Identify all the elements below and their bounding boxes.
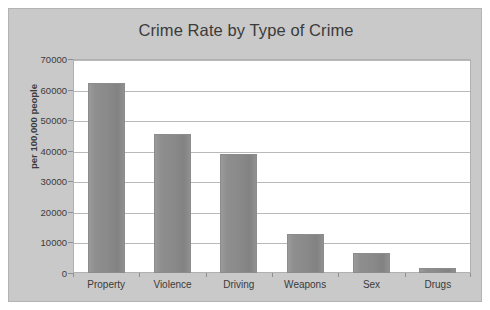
x-axis-tick-marks [73, 273, 471, 278]
x-axis-tick-label: Drugs [424, 279, 451, 290]
chart-canvas: Crime Rate by Type of Crime per 100,000 … [8, 8, 482, 302]
bar-weapons[interactable] [287, 234, 324, 273]
x-axis-tick-mark [73, 273, 74, 277]
x-axis-tick-label: Sex [363, 279, 380, 290]
y-axis-tick-label: 50000 [13, 115, 67, 126]
bar-violence[interactable] [154, 134, 191, 273]
bar-slot [206, 59, 272, 273]
bar-slot [405, 59, 471, 273]
chart-title: Crime Rate by Type of Crime [9, 21, 482, 40]
bar-slot [272, 59, 338, 273]
bar-sex[interactable] [353, 253, 390, 273]
chart-figure: Crime Rate by Type of Crime per 100,000 … [0, 0, 490, 310]
y-axis-tick-labels: 010000200003000040000500006000070000 [9, 59, 67, 273]
x-axis-tick-label: Violence [153, 279, 191, 290]
x-axis-tick-mark [206, 273, 207, 277]
y-axis-tick-label: 60000 [13, 84, 67, 95]
x-axis-tick-mark [338, 273, 339, 277]
x-axis-tick-mark [139, 273, 140, 277]
y-axis-tick-label: 20000 [13, 206, 67, 217]
x-axis-tick-mark [470, 273, 471, 277]
y-axis-tick-label: 30000 [13, 176, 67, 187]
x-axis-tick-label: Weapons [284, 279, 326, 290]
bar-slot [73, 59, 139, 273]
y-axis-tick-label: 40000 [13, 145, 67, 156]
x-axis-tick-mark [272, 273, 273, 277]
x-axis-tick-label: Driving [223, 279, 254, 290]
bar-property[interactable] [88, 83, 125, 273]
bar-slot [338, 59, 404, 273]
x-axis-tick-mark [405, 273, 406, 277]
y-axis-tick-label: 10000 [13, 237, 67, 248]
y-axis-tick-label: 70000 [13, 54, 67, 65]
bars-layer [73, 59, 471, 273]
x-axis-tick-label: Property [87, 279, 125, 290]
x-axis-tick-labels: PropertyViolenceDrivingWeaponsSexDrugs [73, 279, 471, 297]
bar-slot [139, 59, 205, 273]
y-axis-tick-label: 0 [13, 268, 67, 279]
bar-driving[interactable] [220, 154, 257, 273]
